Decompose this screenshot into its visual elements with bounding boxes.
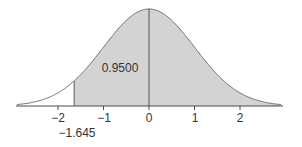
tick-label: −2 bbox=[51, 111, 65, 125]
tick-label: 1 bbox=[192, 111, 199, 125]
shaded-area-label: 0.9500 bbox=[102, 61, 139, 75]
tick-label: −1 bbox=[97, 111, 111, 125]
tick-label: 0 bbox=[146, 111, 153, 125]
normal-distribution-chart: −2 −1 0 1 2 −1.645 0.9500 bbox=[0, 0, 302, 147]
tick-label: 2 bbox=[237, 111, 244, 125]
critical-value-label: −1.645 bbox=[58, 126, 95, 140]
shaded-area bbox=[74, 9, 281, 106]
